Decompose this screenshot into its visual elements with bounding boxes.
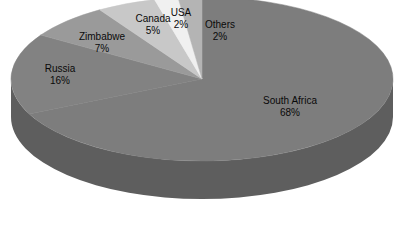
pie-label-usa: USA 2% <box>162 7 200 30</box>
pie-label-russia: Russia 16% <box>18 63 102 86</box>
pie-label-others-name: Others <box>196 19 244 31</box>
pie-label-usa-name: USA <box>162 7 200 19</box>
pie-label-south-africa-value: 68% <box>236 107 344 119</box>
pie-label-usa-value: 2% <box>162 19 200 31</box>
pie-chart: South Africa 68% Russia 16% Zimbabwe 7% … <box>0 0 407 251</box>
pie-label-others: Others 2% <box>196 19 244 42</box>
pie-label-russia-name: Russia <box>18 63 102 75</box>
pie-label-south-africa-name: South Africa <box>236 95 344 107</box>
pie-label-south-africa: South Africa 68% <box>236 95 344 118</box>
pie-label-others-value: 2% <box>196 31 244 43</box>
pie-label-russia-value: 16% <box>18 75 102 87</box>
pie-label-zimbabwe-value: 7% <box>64 43 140 55</box>
